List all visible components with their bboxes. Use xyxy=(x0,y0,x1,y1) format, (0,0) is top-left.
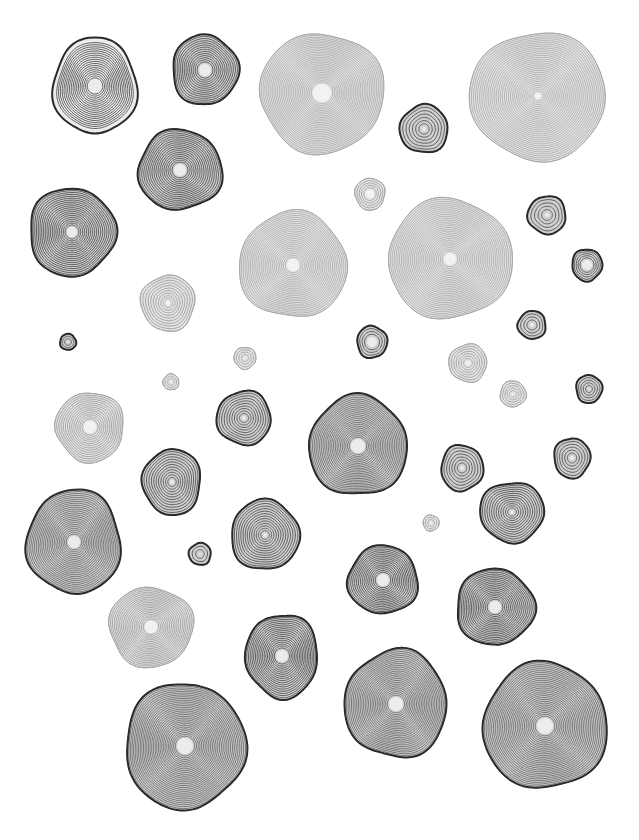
ring-blob xyxy=(163,374,179,390)
ring-blob xyxy=(449,344,487,383)
ring-blob xyxy=(517,311,545,339)
ring-blob xyxy=(347,545,418,613)
ring-blob xyxy=(554,439,590,479)
ring-blob xyxy=(189,543,211,565)
ring-blob xyxy=(216,391,270,446)
ring-blob xyxy=(60,334,76,350)
ring-blob xyxy=(234,348,256,370)
ring-blob xyxy=(357,326,387,358)
ring-blob xyxy=(141,449,200,515)
ring-blob xyxy=(527,196,565,234)
ring-blob xyxy=(573,250,603,282)
ring-blob xyxy=(388,197,512,319)
ring-blob xyxy=(140,275,195,331)
ring-blob xyxy=(309,393,407,493)
ring-blob xyxy=(355,178,386,210)
ring-blob xyxy=(423,515,439,531)
ring-blob xyxy=(25,490,121,594)
ring-blob xyxy=(240,209,348,316)
ring-blob xyxy=(345,648,447,758)
ring-blob xyxy=(55,393,123,463)
ring-blob xyxy=(232,498,300,568)
concentric-ring-artwork xyxy=(0,0,639,840)
ring-blob xyxy=(458,569,536,645)
ring-blob xyxy=(441,445,483,492)
ring-blob xyxy=(245,616,317,700)
ring-blob xyxy=(480,483,544,544)
artwork-svg xyxy=(0,0,639,840)
ring-blob xyxy=(127,684,247,810)
ring-blob xyxy=(399,104,447,152)
ring-blob xyxy=(109,587,194,668)
ring-blob xyxy=(469,33,605,162)
ring-blob xyxy=(138,129,223,210)
ring-blob xyxy=(482,661,606,788)
ring-blob xyxy=(174,34,240,104)
ring-blob xyxy=(52,37,138,133)
ring-blob xyxy=(259,34,383,155)
ring-blob xyxy=(31,189,117,277)
ring-blob xyxy=(500,381,526,407)
ring-blob xyxy=(576,375,602,403)
